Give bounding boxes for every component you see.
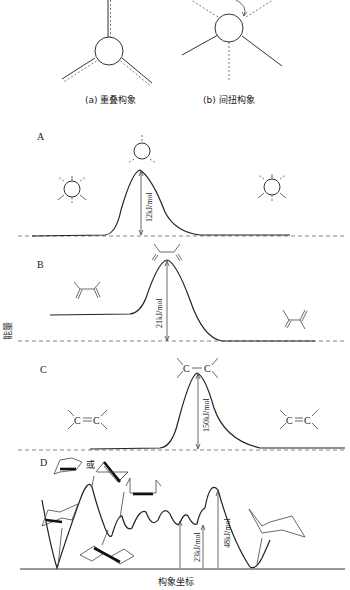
- panel-c-energy-curve: [90, 373, 345, 449]
- y-axis-label: 能量: [2, 322, 13, 340]
- svg-text:C: C: [304, 415, 311, 426]
- svg-text:C: C: [286, 415, 293, 426]
- svg-text:C: C: [93, 415, 100, 426]
- chair-right: [249, 509, 305, 564]
- rotation-arrow-icon: [236, 0, 245, 16]
- alkene-right: C C: [280, 410, 318, 429]
- svg-text:C: C: [183, 363, 190, 374]
- twist-boat-top: [92, 462, 128, 486]
- newman-staggered-left: [58, 176, 86, 205]
- boat-right: [120, 478, 161, 518]
- svg-text:C: C: [74, 415, 81, 426]
- half-chair-top: [54, 458, 82, 474]
- newman-eclipsed-small: [128, 135, 156, 163]
- conformation-energy-diagram: (a) 重叠构象 (b) 间扭构象 A 12kJ/mol: [0, 0, 350, 590]
- caption-eclipsed: (a) 重叠构象: [85, 94, 136, 105]
- diene-right: [283, 310, 307, 329]
- twist-boat-bottom: [80, 530, 134, 564]
- newman-eclipsed: [62, 0, 152, 86]
- panel-b-energy-curve: [50, 260, 315, 341]
- diene-eclipsed-top: [152, 244, 182, 261]
- panel-c-label: C: [40, 364, 47, 375]
- panel-b-label: B: [37, 259, 44, 270]
- panel-d-barrier-23: 23kJ/mol: [193, 531, 202, 562]
- caption-staggered: (b) 间扭构象: [203, 94, 255, 105]
- x-axis-label: 构象坐标: [158, 576, 194, 587]
- panel-c-barrier-label: 150kJ/mol: [202, 397, 211, 432]
- panel-a-label: A: [37, 131, 45, 142]
- newman-staggered: [182, 0, 282, 82]
- or-text: 或: [86, 459, 95, 470]
- diene-left: [74, 282, 100, 299]
- panel-b-barrier-label: 21kJ/mol: [155, 297, 164, 328]
- panel-d-energy-curve: [42, 484, 270, 568]
- panel-a-energy-curve: [32, 170, 290, 236]
- newman-staggered-right: [258, 174, 286, 203]
- panel-d-barrier-48: 48kJ/mol: [223, 517, 232, 548]
- alkene-left: C C: [68, 410, 107, 429]
- svg-text:C: C: [204, 363, 211, 374]
- panel-a-barrier-label: 12kJ/mol: [145, 191, 154, 222]
- panel-d-label: D: [40, 457, 47, 468]
